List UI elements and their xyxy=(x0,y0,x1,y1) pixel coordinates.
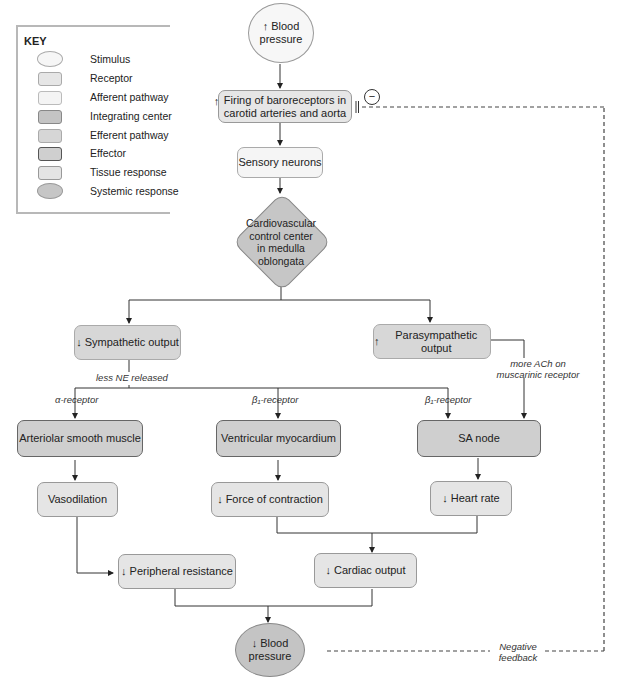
node-text: Sympathetic output xyxy=(85,336,179,349)
key-label: Efferent pathway xyxy=(90,129,169,141)
ach-label: more ACh on muscarinic receptor xyxy=(493,358,583,380)
integrating-swatch-icon xyxy=(38,110,62,124)
cardiac-output-node: ↓ Cardiac output xyxy=(314,553,417,588)
heart-rate-node: ↓ Heart rate xyxy=(430,481,512,516)
vasodilation-node: Vasodilation xyxy=(37,482,118,517)
arrow-down-icon: ↓ xyxy=(217,493,223,506)
parasympathetic-node: ↑ Parasympathetic output xyxy=(373,324,491,359)
receptor-swatch-icon xyxy=(38,72,62,86)
node-text: Sensory neurons xyxy=(238,156,321,169)
label-line: feedback xyxy=(499,652,538,663)
key-label: Integrating center xyxy=(90,110,172,122)
node-text: Heart rate xyxy=(451,492,500,505)
stimulus-node: ↑Blood pressure xyxy=(248,3,314,63)
arrow-down-icon: ↓ xyxy=(252,637,258,649)
key-item-receptor: Receptor xyxy=(38,70,178,88)
arrow-down-icon: ↓ xyxy=(442,492,448,505)
node-text: Cardiac output xyxy=(334,564,406,577)
node-text: Vasodilation xyxy=(48,493,107,506)
blood-pressure-decrease-node: ↓Blood pressure xyxy=(235,623,305,677)
systemic-swatch-icon xyxy=(37,183,63,199)
node-text: Blood xyxy=(260,637,288,649)
node-text: control center xyxy=(249,230,313,242)
integrating-center-node: Cardiovascular control center in medulla… xyxy=(233,193,329,289)
ventricular-node: Ventricular myocardium xyxy=(216,420,341,457)
key-label: Effector xyxy=(90,147,126,159)
negative-feedback-label: Negative feedback xyxy=(490,641,546,663)
arrow-down-icon: ↓ xyxy=(121,565,127,578)
label-line: muscarinic receptor xyxy=(497,369,580,380)
node-text: SA node xyxy=(458,432,500,445)
key-legend: KEY Stimulus Receptor Afferent pathway I… xyxy=(16,25,170,214)
alpha-receptor-label: α-receptor xyxy=(55,394,98,405)
key-item-integrating: Integrating center xyxy=(38,108,178,126)
force-of-contraction-node: ↓ Force of contraction xyxy=(211,482,329,517)
node-text: pressure xyxy=(260,33,303,45)
tissue-swatch-icon xyxy=(38,166,62,180)
less-ne-label: less NE released xyxy=(96,372,168,383)
node-text: carotid arteries and aorta xyxy=(224,107,346,119)
node-text: Arteriolar smooth muscle xyxy=(19,432,141,445)
node-text: Cardiovascular xyxy=(246,217,316,229)
node-text: oblongata xyxy=(258,255,304,267)
node-text: Force of contraction xyxy=(226,493,323,506)
efferent-swatch-icon xyxy=(38,129,62,143)
node-text: Ventricular myocardium xyxy=(221,432,336,445)
afferent-swatch-icon xyxy=(38,91,62,105)
beta1-receptor-label-2: β₁-receptor xyxy=(425,394,471,405)
receptor-node: ↑ Firing of baroreceptors in carotid art… xyxy=(218,90,352,123)
arrow-up-icon: ↑ xyxy=(214,95,220,108)
node-text: Parasympathetic output xyxy=(383,329,491,355)
key-item-effector: Effector xyxy=(38,145,178,163)
stimulus-swatch-icon xyxy=(37,51,63,67)
node-text: Peripheral resistance xyxy=(130,565,233,578)
sympathetic-node: ↓ Sympathetic output xyxy=(74,325,181,360)
node-text: Firing of baroreceptors in xyxy=(224,94,346,106)
sa-node: SA node xyxy=(417,420,541,457)
label-line: Negative xyxy=(499,641,537,652)
key-label: Receptor xyxy=(90,72,133,84)
inhibition-minus-icon: − xyxy=(364,89,380,105)
arteriolar-node: Arteriolar smooth muscle xyxy=(17,420,143,457)
arrow-down-icon: ↓ xyxy=(76,336,82,349)
key-item-stimulus: Stimulus xyxy=(38,51,178,69)
key-item-afferent: Afferent pathway xyxy=(38,89,178,107)
key-item-tissue: Tissue response xyxy=(38,164,178,182)
key-title: KEY xyxy=(24,35,47,47)
node-text: Blood xyxy=(271,20,299,32)
key-item-efferent: Efferent pathway xyxy=(38,127,178,145)
key-label: Tissue response xyxy=(90,166,167,178)
key-item-systemic: Systemic response xyxy=(38,183,178,201)
node-text: in medulla xyxy=(257,242,305,254)
arrow-down-icon: ↓ xyxy=(325,564,331,577)
node-text: pressure xyxy=(249,650,292,662)
arrow-up-icon: ↑ xyxy=(374,335,380,348)
key-label: Stimulus xyxy=(90,53,130,65)
key-label: Afferent pathway xyxy=(90,91,169,103)
arrow-up-icon: ↑ xyxy=(263,20,269,32)
peripheral-resistance-node: ↓ Peripheral resistance xyxy=(118,554,236,589)
beta1-receptor-label: β₁-receptor xyxy=(252,394,298,405)
key-label: Systemic response xyxy=(90,185,179,197)
label-line: more ACh on xyxy=(510,358,566,369)
effector-swatch-icon xyxy=(38,147,62,161)
afferent-node: Sensory neurons xyxy=(237,147,323,178)
